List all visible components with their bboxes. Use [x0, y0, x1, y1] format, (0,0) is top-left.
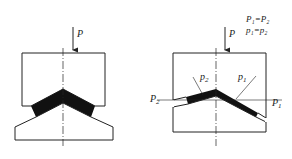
label-p2: p2	[199, 71, 209, 84]
label-P2: P2	[149, 93, 160, 106]
right-upper-block	[173, 53, 266, 118]
left-lower-block	[15, 103, 113, 140]
equation-pressure: p₁=p₂	[245, 25, 267, 35]
right-figure: P₁=P₂ p₁=p₂ P P2 P1 p2 p1	[149, 14, 282, 146]
left-force-label: P	[76, 28, 83, 39]
label-p1: p1	[237, 71, 247, 84]
left-figure: P	[15, 27, 113, 146]
seal-diagram: P P₁=P₂ p₁=p₂ P P2 P1 p2 p1	[0, 0, 292, 159]
equation-force: P₁=P₂	[245, 14, 269, 24]
label-P1: P1	[271, 97, 282, 110]
right-force-label: P	[228, 28, 235, 39]
